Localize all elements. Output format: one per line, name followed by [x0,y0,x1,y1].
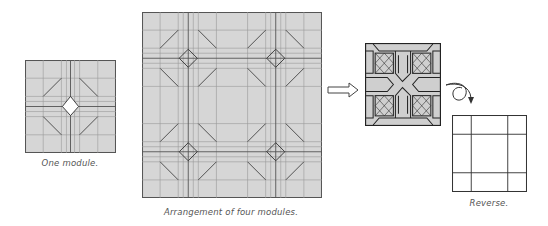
reverse-caption: Reverse. [470,198,509,208]
folded-model-diagram [365,43,441,126]
arrow-right-icon [327,82,359,98]
four-modules-diagram [142,12,322,198]
reverse-view-diagram [452,115,527,192]
one-module-caption: One module. [42,158,99,168]
one-module-diagram [25,60,116,153]
turn-over-icon [444,82,478,108]
arrangement-caption: Arrangement of four modules. [164,207,298,217]
